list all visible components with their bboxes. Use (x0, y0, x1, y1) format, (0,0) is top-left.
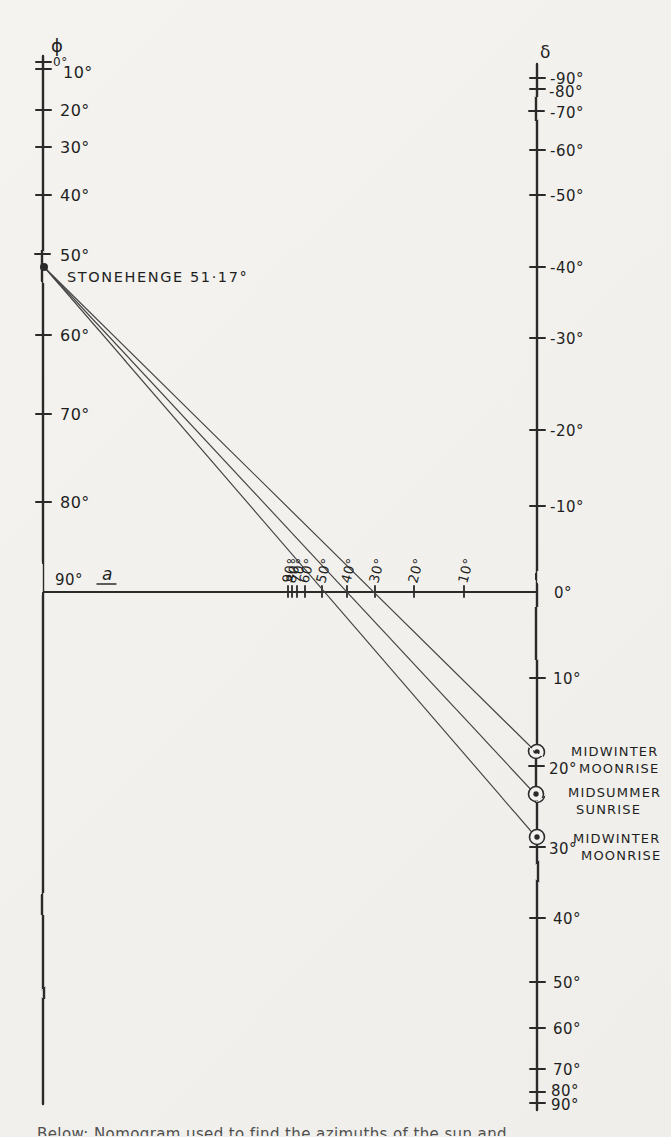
delta-tick-label-16: 70° (553, 1061, 581, 1079)
delta-axis-symbol: δ (540, 42, 551, 62)
delta-tick-label-2: -70° (550, 104, 584, 122)
azimuth-tick-label-8: 10° (454, 556, 476, 585)
delta-tick-label-8: -10° (550, 498, 584, 516)
phi-axis-symbol: ϕ (51, 35, 63, 56)
result-label-1-0: MIDSUMMER (568, 785, 661, 800)
result-circle-dot-0 (534, 749, 539, 754)
bottom-caption-text: Below: Nomogram used to find the azimuth… (37, 1127, 507, 1136)
alignment-line-1 (46, 269, 536, 795)
phi-tick-label-5: 50° (60, 246, 90, 265)
result-label-0-0: MIDWINTER (571, 744, 658, 759)
alignment-line-0 (46, 269, 536, 752)
delta-tick-label-9: 0° (554, 584, 572, 602)
phi-tick-label-6: 60° (60, 326, 90, 345)
result-label-1-1: SUNRISE (576, 802, 641, 817)
phi-tick-label-1: 10° (63, 63, 93, 82)
cropped-bottom-caption: Below: Nomogram used to find the azimuth… (37, 1127, 507, 1136)
delta-tick-label-6: -30° (550, 330, 584, 348)
phi-tick-label-8: 80° (60, 493, 90, 512)
result-label-0-1: MOONRISE (579, 761, 659, 776)
delta-tick-label-3: -60° (550, 142, 584, 160)
result-label-2-0: MIDWINTER (573, 831, 660, 846)
phi-tick-label-3: 30° (60, 138, 90, 157)
delta-tick-label-11: 20° (549, 760, 577, 778)
delta-tick-label-18: 90° (551, 1096, 579, 1114)
phi-tick-label-7: 70° (60, 405, 90, 424)
azimuth-tick-label-6: 30° (365, 556, 387, 585)
delta-tick-label-14: 50° (553, 974, 581, 992)
delta-tick-label-5: -40° (550, 259, 584, 277)
azimuth-tick-label-5: 40° (337, 556, 359, 585)
delta-tick-label-1: -80° (549, 83, 583, 101)
phi-90-label: 90° (55, 571, 83, 589)
stonehenge-label: STONEHENGE 51·17° (67, 269, 248, 285)
delta-tick-label-13: 40° (553, 910, 581, 928)
delta-tick-label-15: 60° (553, 1020, 581, 1038)
alignment-line-2 (46, 269, 536, 837)
result-circle-dot-2 (534, 834, 539, 839)
phi-tick-label-4: 40° (60, 186, 90, 205)
nomogram-svg: 0°10°20°30°40°50°60°70°80°ϕ90°-90°-80°-7… (0, 0, 671, 1137)
phi-tick-label-2: 20° (60, 101, 90, 120)
azimuth-axis-symbol: a (102, 564, 113, 584)
delta-tick-label-7: -20° (550, 422, 584, 440)
result-label-2-1: MOONRISE (581, 848, 661, 863)
delta-tick-label-10: 10° (553, 670, 581, 688)
azimuth-tick-label-7: 20° (404, 556, 426, 585)
stonehenge-point (41, 264, 49, 272)
delta-tick-label-4: -50° (550, 187, 584, 205)
nomogram-figure: 0°10°20°30°40°50°60°70°80°ϕ90°-90°-80°-7… (0, 0, 671, 1137)
result-circle-dot-1 (534, 792, 539, 797)
